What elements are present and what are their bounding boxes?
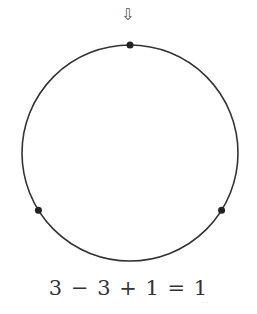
circle-diagram [0, 0, 257, 314]
circle [22, 45, 238, 261]
faint-mark: ˙˙ [201, 302, 209, 311]
equation: 3 − 3 + 1 = 1 [0, 276, 257, 300]
point-bottom-right [218, 207, 225, 214]
point-top [127, 42, 134, 49]
point-bottom-left [35, 207, 42, 214]
